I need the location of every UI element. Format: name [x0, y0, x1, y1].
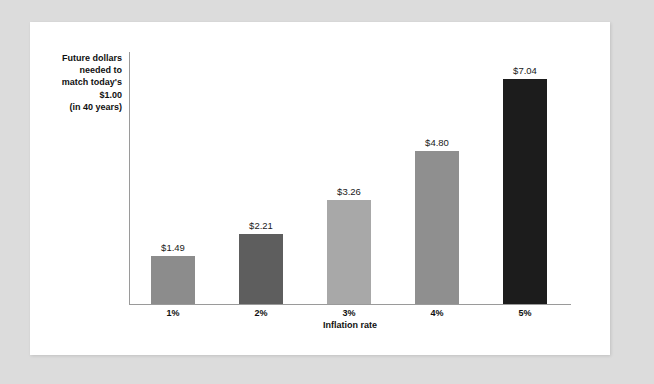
bar-value-label: $1.49	[129, 242, 217, 253]
bar[interactable]	[415, 151, 459, 304]
bar-group: $3.26	[305, 52, 393, 304]
bar-chart: Future dollars needed to match today's $…	[0, 0, 654, 384]
y-axis-title-line-3: match today's	[46, 76, 122, 88]
chart-page: Future dollars needed to match today's $…	[0, 0, 654, 384]
bar-value-label: $7.04	[481, 65, 569, 76]
bar-group: $4.80	[393, 52, 481, 304]
y-axis-title-line-1: Future dollars	[46, 52, 122, 64]
y-axis-title: Future dollars needed to match today's $…	[46, 52, 122, 113]
bar[interactable]	[151, 256, 195, 304]
bar-value-label: $3.26	[305, 186, 393, 197]
bar-value-label: $2.21	[217, 220, 305, 231]
x-axis-line	[129, 304, 571, 305]
bars-layer: $1.49$2.21$3.26$4.80$7.04	[129, 52, 571, 304]
y-axis-title-line-2: needed to	[46, 64, 122, 76]
y-axis-title-line-5: (in 40 years)	[46, 101, 122, 113]
x-tick-label: 1%	[129, 308, 217, 318]
bar-value-label: $4.80	[393, 137, 481, 148]
x-tick-label: 2%	[217, 308, 305, 318]
y-axis-title-line-4: $1.00	[46, 89, 122, 101]
bar-group: $1.49	[129, 52, 217, 304]
x-axis-title: Inflation rate	[129, 320, 571, 330]
bar[interactable]	[327, 200, 371, 304]
bar[interactable]	[503, 79, 547, 304]
x-tick-label: 3%	[305, 308, 393, 318]
bar[interactable]	[239, 234, 283, 304]
bar-group: $2.21	[217, 52, 305, 304]
x-tick-label: 4%	[393, 308, 481, 318]
x-tick-label: 5%	[481, 308, 569, 318]
bar-group: $7.04	[481, 52, 569, 304]
